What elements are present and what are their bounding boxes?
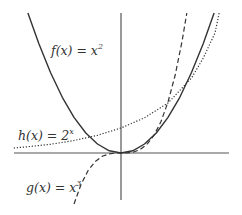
label-g-exponent: 3	[76, 179, 81, 188]
label-h-text: h(x) = 2	[18, 128, 69, 143]
label-h-exponent: x	[69, 127, 74, 136]
curves	[14, 13, 219, 204]
label-f: f(x) = x2	[51, 43, 103, 58]
label-g-text: g(x) = x	[26, 180, 76, 195]
label-f-exponent: 2	[98, 42, 103, 51]
curve-g	[74, 13, 187, 204]
label-g: g(x) = x3	[26, 180, 81, 195]
label-f-text: f(x) = x	[51, 43, 98, 58]
axes	[14, 13, 229, 200]
label-h: h(x) = 2x	[18, 128, 74, 143]
